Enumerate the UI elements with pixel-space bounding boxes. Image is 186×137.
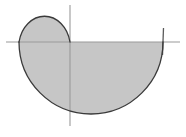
polar-region-figure bbox=[0, 0, 186, 137]
figure-root bbox=[0, 0, 186, 137]
